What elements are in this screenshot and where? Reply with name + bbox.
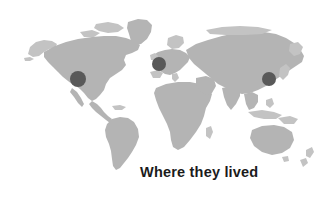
landmass-siberia-coast — [206, 26, 272, 35]
landmass-indonesia — [248, 110, 282, 119]
landmass-aleutians — [24, 57, 34, 61]
landmass-scandinavia — [167, 35, 184, 49]
landmass-tasmania — [282, 156, 289, 162]
landmass-south-america — [105, 117, 139, 170]
landmass-australia — [250, 125, 294, 155]
landmass-india — [222, 86, 240, 110]
figure-caption: Where they lived — [140, 164, 310, 180]
marker-north-america[interactable] — [70, 71, 86, 87]
landmass-north-america — [44, 36, 140, 101]
landmass-arctic-islands-2 — [80, 30, 100, 37]
landmass-central-america — [89, 101, 112, 123]
marker-east-asia[interactable] — [262, 72, 276, 86]
landmass-italy — [172, 73, 179, 82]
landmass-southeast-asia — [244, 92, 258, 110]
landmass-arctic-islands — [94, 22, 124, 33]
landmass-caribbean — [112, 105, 126, 110]
landmass-new-zealand — [306, 147, 314, 158]
where-they-lived-figure: Where they lived — [0, 0, 328, 202]
landmass-new-guinea — [278, 116, 298, 124]
landmass-madagascar — [206, 126, 213, 139]
marker-europe[interactable] — [152, 57, 166, 71]
landmass-philippines — [266, 98, 274, 108]
